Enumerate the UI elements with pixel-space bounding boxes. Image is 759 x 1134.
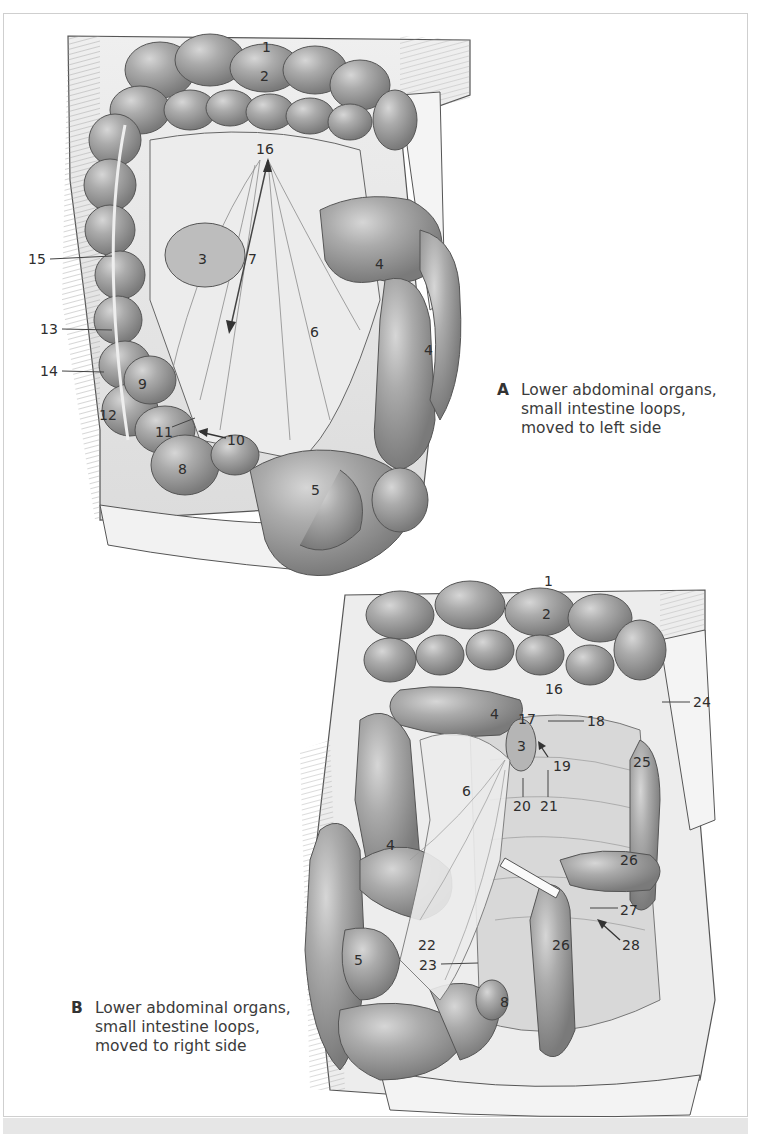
label-a-4-upper: 4: [375, 257, 384, 271]
caption-b-text: Lower abdominal organs, small intestine …: [95, 999, 311, 1056]
label-a-15: 15: [28, 252, 46, 266]
label-b-28: 28: [622, 938, 640, 952]
caption-a-line-1: Lower abdominal organs,: [521, 381, 737, 400]
label-a-4-lower: 4: [424, 343, 433, 357]
label-a-6: 6: [310, 325, 319, 339]
caption-b-line-3: moved to right side: [95, 1037, 311, 1056]
label-b-3: 3: [517, 739, 526, 753]
label-b-22: 22: [418, 938, 436, 952]
figure-a-illustration: [0, 0, 759, 1134]
caption-a: A Lower abdominal organs, small intestin…: [497, 381, 737, 438]
label-b-20: 20: [513, 799, 531, 813]
caption-b: B Lower abdominal organs, small intestin…: [71, 999, 311, 1056]
label-a-7: 7: [248, 252, 257, 266]
caption-a-line-3: moved to left side: [521, 419, 737, 438]
label-b-26-upper: 26: [620, 853, 638, 867]
label-b-27: 27: [620, 903, 638, 917]
caption-a-text: Lower abdominal organs, small intestine …: [521, 381, 737, 438]
label-a-1: 1: [262, 40, 271, 54]
label-b-25: 25: [633, 755, 651, 769]
label-b-23: 23: [419, 958, 437, 972]
label-a-3: 3: [198, 252, 207, 266]
label-b-19: 19: [553, 759, 571, 773]
caption-b-line-1: Lower abdominal organs,: [95, 999, 311, 1018]
label-b-18: 18: [587, 714, 605, 728]
label-b-1: 1: [544, 574, 553, 588]
caption-b-letter: B: [71, 999, 83, 1018]
label-b-6: 6: [462, 784, 471, 798]
label-b-21: 21: [540, 799, 558, 813]
caption-b-line-2: small intestine loops,: [95, 1018, 311, 1037]
label-a-5: 5: [311, 483, 320, 497]
label-a-11: 11: [155, 425, 173, 439]
label-a-9: 9: [138, 377, 147, 391]
caption-a-letter: A: [497, 381, 509, 400]
label-b-8: 8: [500, 995, 509, 1009]
figure-a-drawing: [0, 0, 759, 1134]
label-b-24: 24: [693, 695, 711, 709]
label-b-5: 5: [354, 953, 363, 967]
label-b-4-upper: 4: [490, 707, 499, 721]
label-b-26-lower: 26: [552, 938, 570, 952]
label-a-13: 13: [40, 322, 58, 336]
label-a-16: 16: [256, 142, 274, 156]
label-a-8: 8: [178, 462, 187, 476]
label-b-16: 16: [545, 682, 563, 696]
label-a-10: 10: [227, 433, 245, 447]
caption-a-line-2: small intestine loops,: [521, 400, 737, 419]
label-b-4-lower: 4: [386, 838, 395, 852]
label-b-17: 17: [518, 712, 536, 726]
label-b-2: 2: [542, 607, 551, 621]
label-a-12: 12: [99, 408, 117, 422]
label-a-14: 14: [40, 364, 58, 378]
label-a-2: 2: [260, 69, 269, 83]
